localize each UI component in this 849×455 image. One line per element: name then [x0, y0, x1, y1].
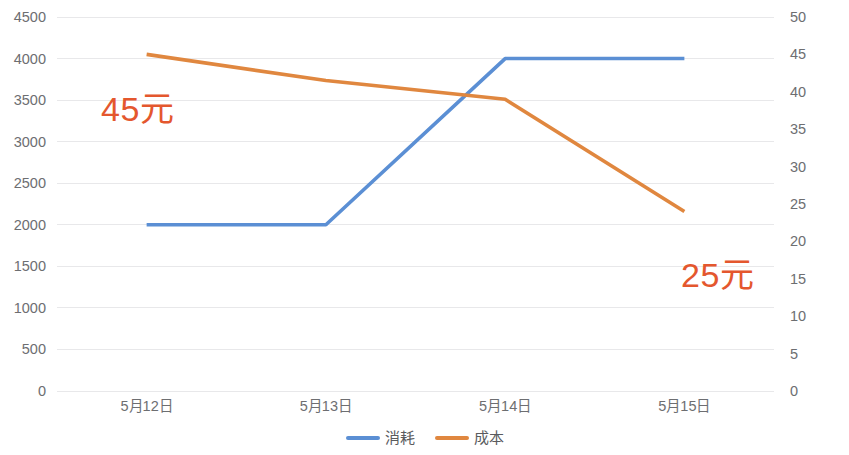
- legend-swatch-consumption: [346, 436, 380, 440]
- category-axis: 5月12日5月13日5月14日5月15日: [0, 0, 849, 455]
- line-chart: 050010001500200025003000350040004500 051…: [0, 0, 849, 455]
- category-tick: 5月12日: [121, 399, 173, 414]
- legend-swatch-cost: [435, 436, 469, 440]
- category-tick: 5月14日: [479, 399, 531, 414]
- annotation-cost-start: 45元: [101, 92, 174, 126]
- legend-item-cost[interactable]: 成本: [435, 430, 504, 445]
- legend-label-cost: 成本: [474, 430, 504, 445]
- chart-legend: 消耗 成本: [0, 430, 849, 445]
- legend-label-consumption: 消耗: [385, 430, 415, 445]
- category-tick: 5月13日: [300, 399, 352, 414]
- legend-item-consumption[interactable]: 消耗: [346, 430, 415, 445]
- annotation-cost-end: 25元: [681, 258, 754, 292]
- category-tick: 5月15日: [658, 399, 710, 414]
